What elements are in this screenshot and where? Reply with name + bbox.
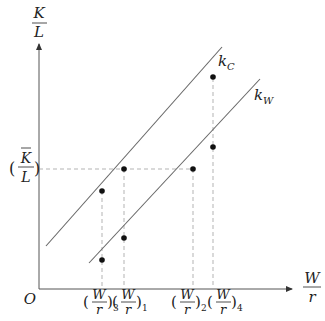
svg-text:W: W <box>304 269 321 287</box>
svg-text:(: ( <box>207 293 213 311</box>
svg-text:L: L <box>20 169 30 185</box>
svg-text:k: k <box>254 86 263 104</box>
diagram-canvas: K L W r O ( K L ) k C k W ( W r ) 3 ( W <box>0 0 325 321</box>
svg-text:r: r <box>96 302 103 317</box>
svg-text:r: r <box>125 302 132 317</box>
x-tick-label-4: ( W r ) 4 <box>207 287 243 317</box>
svg-text:r: r <box>184 302 191 317</box>
data-points <box>99 74 216 263</box>
svg-text:): ) <box>195 293 201 311</box>
svg-text:(: ( <box>83 293 89 311</box>
x-tick-label-2: ( W r ) 2 <box>171 287 207 317</box>
svg-text:(: ( <box>9 159 15 178</box>
svg-text:): ) <box>231 293 237 311</box>
svg-text:): ) <box>136 293 142 311</box>
svg-text:W: W <box>92 287 107 302</box>
svg-text:W: W <box>180 287 195 302</box>
svg-text:W: W <box>216 287 231 302</box>
origin-label: O <box>24 290 36 308</box>
dashed-guides <box>39 78 213 289</box>
svg-text:r: r <box>308 288 316 306</box>
kw-line <box>89 79 260 263</box>
y-marker-label: ( K L ) <box>9 148 40 185</box>
svg-text:W: W <box>121 287 136 302</box>
svg-text:K: K <box>32 4 45 22</box>
kc-line <box>46 47 222 246</box>
svg-text:(: ( <box>112 293 118 311</box>
svg-text:(: ( <box>171 293 177 311</box>
svg-text:k: k <box>218 52 227 70</box>
x-axis-label: W r <box>303 269 321 306</box>
svg-text:W: W <box>263 95 274 106</box>
svg-text:r: r <box>220 302 227 317</box>
svg-text:4: 4 <box>237 303 243 313</box>
svg-text:1: 1 <box>142 303 148 313</box>
kc-label: k C <box>218 52 235 72</box>
svg-text:L: L <box>33 23 44 41</box>
svg-text:K: K <box>20 150 33 166</box>
svg-text:): ) <box>34 159 40 178</box>
svg-text:2: 2 <box>201 303 207 313</box>
kw-label: k W <box>254 86 274 106</box>
svg-text:C: C <box>227 61 235 72</box>
y-axis-label: K L <box>32 4 47 41</box>
